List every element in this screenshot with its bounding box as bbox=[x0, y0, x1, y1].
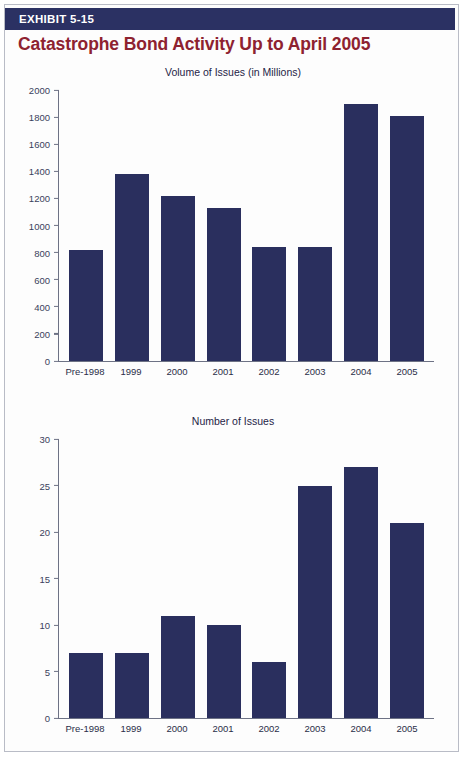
x-axis-label: 1999 bbox=[108, 723, 154, 734]
bar-slot bbox=[201, 90, 247, 361]
exhibit-banner: EXHIBIT 5-15 bbox=[5, 8, 455, 30]
bar-slot bbox=[63, 439, 109, 718]
chart-title: Number of Issues bbox=[18, 415, 448, 427]
x-axis-label: 2000 bbox=[154, 723, 200, 734]
bar bbox=[298, 486, 332, 719]
bar bbox=[69, 250, 103, 361]
x-axis-label: 2000 bbox=[154, 366, 200, 377]
bar bbox=[161, 196, 195, 361]
x-axis-label: 2003 bbox=[292, 723, 338, 734]
bar-slot bbox=[338, 439, 384, 718]
x-axis-label: 2005 bbox=[384, 366, 430, 377]
y-axis-tick: 0 bbox=[45, 356, 59, 367]
bar-slot bbox=[155, 90, 201, 361]
x-axis-label: 2001 bbox=[200, 366, 246, 377]
bar-series bbox=[59, 90, 434, 361]
y-axis-tick: 15 bbox=[39, 573, 59, 584]
y-axis-tick: 20 bbox=[39, 527, 59, 538]
x-axis-label: 2004 bbox=[338, 723, 384, 734]
x-axis-label: Pre-1998 bbox=[62, 723, 108, 734]
y-axis-tick: 200 bbox=[34, 328, 59, 339]
y-axis-tick: 1800 bbox=[29, 112, 59, 123]
bar-slot bbox=[201, 439, 247, 718]
plot-area: 302520151050 bbox=[58, 439, 434, 719]
bar bbox=[115, 653, 149, 718]
bar-slot bbox=[292, 439, 338, 718]
y-axis-tick: 1600 bbox=[29, 139, 59, 150]
x-axis-labels: Pre-19981999200020012002200320042005 bbox=[58, 366, 434, 377]
bar bbox=[344, 467, 378, 718]
bar-slot bbox=[338, 90, 384, 361]
y-axis-tick: 30 bbox=[39, 434, 59, 445]
y-axis-tick: 600 bbox=[34, 274, 59, 285]
bar-slot bbox=[109, 90, 155, 361]
y-axis-tick: 1200 bbox=[29, 193, 59, 204]
bar-slot bbox=[384, 439, 430, 718]
plot-area: 2000180016001400120010008006004002000 bbox=[58, 90, 434, 362]
chart-number-of-issues: Number of Issues 302520151050 Pre-199819… bbox=[18, 415, 448, 745]
y-axis-tick: 0 bbox=[45, 713, 59, 724]
bar bbox=[390, 116, 424, 361]
y-axis-tick: 10 bbox=[39, 620, 59, 631]
bar bbox=[252, 247, 286, 361]
bar bbox=[298, 247, 332, 361]
bar bbox=[390, 523, 424, 718]
chart-title: Volume of Issues (in Millions) bbox=[18, 66, 448, 78]
bar-slot bbox=[109, 439, 155, 718]
bar-series bbox=[59, 439, 434, 718]
y-axis-tick: 1400 bbox=[29, 166, 59, 177]
y-axis-tick: 25 bbox=[39, 480, 59, 491]
x-axis-label: 2004 bbox=[338, 366, 384, 377]
bar bbox=[207, 625, 241, 718]
bar bbox=[161, 616, 195, 718]
x-axis-label: 2002 bbox=[246, 723, 292, 734]
exhibit-number-label: EXHIBIT 5-15 bbox=[19, 13, 94, 25]
x-axis-label: 1999 bbox=[108, 366, 154, 377]
y-axis-tick: 1000 bbox=[29, 220, 59, 231]
bar bbox=[252, 662, 286, 718]
bar-slot bbox=[247, 90, 293, 361]
x-axis-label: 2001 bbox=[200, 723, 246, 734]
x-axis-label: 2003 bbox=[292, 366, 338, 377]
bar bbox=[115, 174, 149, 361]
bar bbox=[207, 208, 241, 361]
bar-slot bbox=[292, 90, 338, 361]
y-axis-tick: 400 bbox=[34, 301, 59, 312]
bar-slot bbox=[155, 439, 201, 718]
x-axis-label: 2005 bbox=[384, 723, 430, 734]
bar bbox=[344, 104, 378, 361]
bar-slot bbox=[63, 90, 109, 361]
y-axis-tick: 2000 bbox=[29, 85, 59, 96]
bar-slot bbox=[247, 439, 293, 718]
y-axis-tick: 800 bbox=[34, 247, 59, 258]
chart-volume-of-issues: Volume of Issues (in Millions) 200018001… bbox=[18, 66, 448, 396]
x-axis-label: Pre-1998 bbox=[62, 366, 108, 377]
page-title: Catastrophe Bond Activity Up to April 20… bbox=[18, 34, 448, 55]
x-axis-labels: Pre-19981999200020012002200320042005 bbox=[58, 723, 434, 734]
x-axis-label: 2002 bbox=[246, 366, 292, 377]
bar bbox=[69, 653, 103, 718]
bar-slot bbox=[384, 90, 430, 361]
y-axis-tick: 5 bbox=[45, 666, 59, 677]
